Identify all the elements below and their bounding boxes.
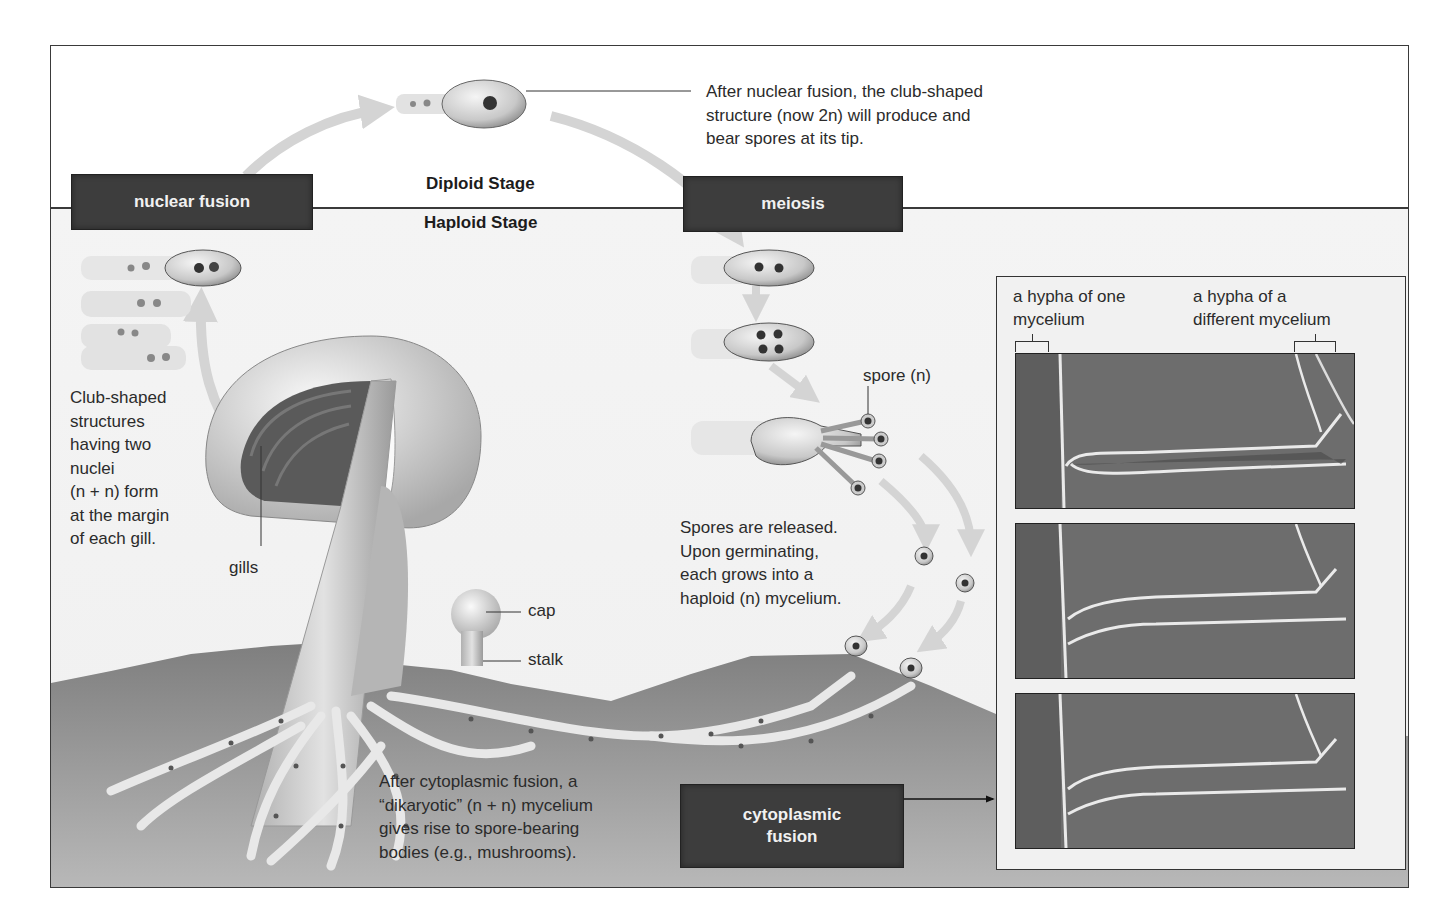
cytoplasmic-fusion-label-line1: cytoplasmic [743,804,841,826]
micrograph-panel: a hypha of one mycelium a hypha of a dif… [996,276,1406,870]
diagram-frame: Diploid Stage Haploid Stage nuclear fusi… [50,45,1409,888]
micrograph-3 [1015,693,1355,849]
button-mushroom [451,589,521,666]
meiosis-box: meiosis [683,176,903,232]
nuclear-fusion-box: nuclear fusion [71,174,313,230]
micrograph-2 [1015,523,1355,679]
cytoplasmic-fusion-box: cytoplasmic fusion [680,784,904,868]
nuclear-fusion-label: nuclear fusion [134,192,250,212]
hypha-different-label: a hypha of a different mycelium [1193,285,1331,331]
stalk-label: stalk [528,650,563,670]
bracket-hypha-different [1294,341,1336,352]
arrow-germinate-2 [926,601,961,646]
meiosis-cell-2-nuclei [691,250,814,286]
cytoplasmic-fusion-label-line2: fusion [767,826,818,848]
micrograph-1 [1015,353,1355,509]
caption-club-shaped: Club-shaped structures having two nuclei… [70,386,169,551]
dikaryotic-club-cells [81,250,241,370]
caption-after-cytoplasmic-fusion: After cytoplasmic fusion, a “dikaryotic”… [379,770,593,864]
meiosis-label: meiosis [761,194,824,214]
haploid-stage-label: Haploid Stage [424,213,537,233]
diploid-stage-label: Diploid Stage [426,174,535,194]
arrow-to-nuclear-fusion-cell [246,109,381,176]
cap-label: cap [528,601,555,621]
diploid-cell [396,80,691,128]
basidium-with-spores [691,386,888,495]
bracket-hypha-one [1015,341,1049,352]
caption-after-nuclear-fusion: After nuclear fusion, the club-shaped st… [706,80,983,151]
arrow-germinate-1 [866,586,911,636]
arrow-meiosis-step2 [771,366,811,396]
gills-label: gills [229,558,258,578]
spore-label: spore (n) [863,366,931,386]
hypha-one-label: a hypha of one mycelium [1013,285,1125,331]
arrow-spore-release-1 [881,481,926,541]
meiosis-cell-4-nuclei [691,323,814,361]
caption-spores-released: Spores are released. Upon germinating, e… [680,516,842,610]
